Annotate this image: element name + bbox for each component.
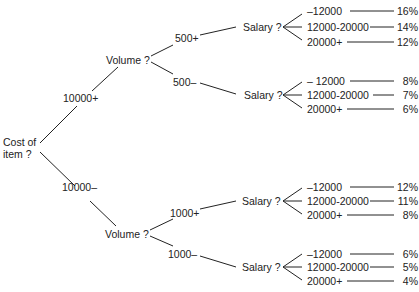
leaf-value: 16% <box>390 5 418 17</box>
volume-node-upper: Volume ? <box>106 54 150 66</box>
edge-label-volume-1000-plus: 1000+ <box>170 207 200 219</box>
edge-label-volume-500-plus: 500+ <box>175 32 199 44</box>
salary-node-1: Salary ? <box>243 21 282 33</box>
leaf-value: 12% <box>390 36 418 48</box>
leaf-range: 12000-20000 <box>307 195 369 207</box>
leaf-value: 6% <box>390 103 418 115</box>
leaf-value: 8% <box>390 209 418 221</box>
leaf-range: –12000 <box>307 181 342 193</box>
leaf-range: 12000-20000 <box>307 21 369 33</box>
leaf-value: 11% <box>390 195 418 207</box>
edge-label-volume-1000-minus: 1000– <box>168 248 197 260</box>
leaf-value: 8% <box>390 75 418 87</box>
edge-label-cost-low: 10000– <box>62 181 97 193</box>
leaf-range: 20000+ <box>307 36 342 48</box>
leaf-value: 4% <box>390 275 418 287</box>
salary-node-4: Salary ? <box>242 261 281 273</box>
leaf-value: 5% <box>390 261 418 273</box>
leaf-range: –12000 <box>307 248 342 260</box>
edge-label-cost-high: 10000+ <box>63 92 98 104</box>
leaf-range: 20000+ <box>307 275 342 287</box>
root-node-label-line2: item ? <box>3 148 32 160</box>
volume-node-lower: Volume ? <box>105 228 149 240</box>
leaf-range: 12000-20000 <box>307 89 369 101</box>
leaf-range: 20000+ <box>307 103 342 115</box>
leaf-value: 12% <box>390 181 418 193</box>
leaf-range: 20000+ <box>307 209 342 221</box>
leaf-range: – 12000 <box>307 75 345 87</box>
edge-label-volume-500-minus: 500– <box>173 76 196 88</box>
leaf-value: 14% <box>390 21 418 33</box>
root-node-label-line1: Cost of <box>3 136 36 148</box>
salary-node-3: Salary ? <box>242 195 281 207</box>
tree-connector-lines <box>0 0 419 292</box>
leaf-range: –12000 <box>307 5 342 17</box>
leaf-value: 7% <box>390 89 418 101</box>
leaf-range: 12000-20000 <box>307 261 369 273</box>
salary-node-2: Salary ? <box>244 89 283 101</box>
decision-tree-diagram: Cost of item ? 10000+ Volume ? 500+ 500–… <box>0 0 419 292</box>
leaf-value: 6% <box>390 248 418 260</box>
